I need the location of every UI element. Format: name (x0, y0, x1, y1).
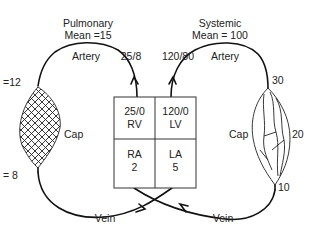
diagram-canvas: 25/0 RV 120/0 LV RA 2 LA 5 Pulmonary Mea… (0, 0, 318, 241)
mesh-line (0, 80, 1, 180)
mesh-line (0, 80, 99, 180)
circulation-diagram: 25/0 RV 120/0 LV RA 2 LA 5 Pulmonary Mea… (0, 0, 318, 241)
systemic-vein (134, 188, 275, 219)
systemic-capillary-bed (252, 88, 290, 185)
pulmonary-vein-label: Vein (95, 212, 116, 224)
systemic-cap-mid-pressure: 20 (292, 128, 304, 140)
mesh-line (0, 80, 22, 180)
mesh-line (0, 80, 15, 180)
systemic-mean: Mean = 100 (192, 29, 248, 41)
pulmonary-artery-arrow (131, 77, 138, 84)
la-pressure: 5 (173, 161, 179, 173)
mesh-line (0, 80, 29, 180)
systemic-cap-out-pressure: 10 (278, 181, 290, 193)
mesh-line (0, 80, 22, 180)
systemic-artery-pressure: 120/80 (162, 50, 194, 62)
systemic-vein-label: Vein (213, 212, 234, 224)
ra-pressure: 2 (132, 161, 138, 173)
mesh-line (0, 80, 8, 180)
systemic-artery-label: Artery (211, 50, 240, 62)
systemic-title: Systemic (199, 17, 242, 29)
lv-label: LV (169, 118, 181, 130)
pulmonary-title: Pulmonary (63, 17, 114, 29)
pulmonary-artery-pressure: 25/8 (121, 50, 142, 62)
rv-label: RV (127, 118, 141, 130)
mesh-line (0, 80, 36, 180)
rv-pressure: 25/0 (124, 105, 145, 117)
mesh-line (0, 80, 15, 180)
pulmonary-cap-out-pressure: = 8 (3, 169, 18, 181)
pulmonary-cap-in-pressure: =12 (3, 76, 21, 88)
la-label: LA (169, 148, 182, 160)
systemic-cap-in-pressure: 30 (272, 74, 284, 86)
mesh-line (0, 80, 36, 180)
lv-pressure: 120/0 (162, 105, 188, 117)
mesh-line (0, 80, 8, 180)
pulmonary-artery-label: Artery (72, 50, 101, 62)
systemic-cap-label: Cap (229, 128, 248, 140)
mesh-line (0, 80, 1, 180)
pulmonary-mean: Mean =15 (65, 29, 112, 41)
pulmonary-cap-label: Cap (64, 128, 83, 140)
mesh-line (0, 80, 29, 180)
ra-label: RA (127, 148, 142, 160)
